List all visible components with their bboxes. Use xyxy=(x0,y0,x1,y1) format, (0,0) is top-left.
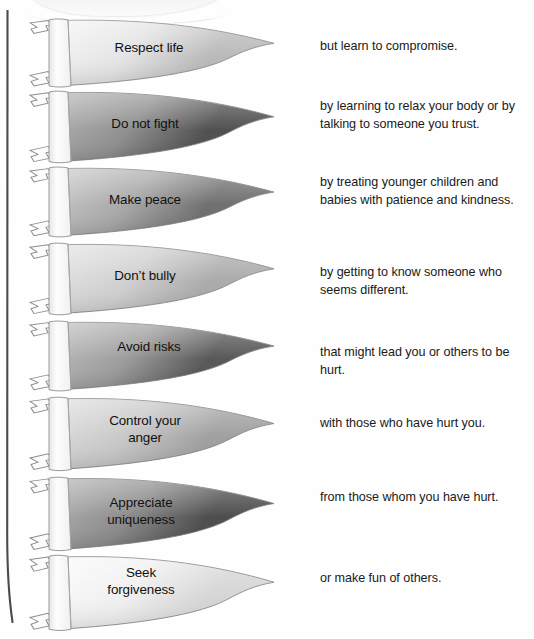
pennant-graphic xyxy=(22,552,282,636)
note-list: but learn to compromise.by learning to r… xyxy=(320,0,534,639)
pennant-graphic xyxy=(22,318,282,396)
page-canvas: Respect life xyxy=(0,0,534,639)
flag-note: from those whom you have hurt. xyxy=(320,489,532,507)
pennant-graphic xyxy=(22,16,282,92)
pennant-graphic xyxy=(22,164,282,242)
flag-item[interactable]: Don’t bully xyxy=(22,240,282,320)
flag-item[interactable]: Control your anger xyxy=(22,394,282,476)
flag-note: by getting to know someone who seems dif… xyxy=(320,264,532,299)
flag-item[interactable]: Seek forgiveness xyxy=(22,552,282,636)
flag-note: or make fun of others. xyxy=(320,570,532,588)
flag-item[interactable]: Make peace xyxy=(22,164,282,242)
flag-item[interactable]: Avoid risks xyxy=(22,318,282,396)
flag-note: but learn to compromise. xyxy=(320,38,532,56)
flag-note: that might lead you or others to be hurt… xyxy=(320,344,532,379)
flag-item[interactable]: Do not fight xyxy=(22,88,282,168)
pennant-graphic xyxy=(22,88,282,168)
pennant-graphic xyxy=(22,474,282,556)
flag-item[interactable]: Respect life xyxy=(22,16,282,92)
page-spine-rule xyxy=(0,10,20,625)
pennant-graphic xyxy=(22,394,282,476)
flag-note: with those who have hurt you. xyxy=(320,415,532,433)
flag-note: by learning to relax your body or by tal… xyxy=(320,98,532,133)
pennant-graphic xyxy=(22,240,282,320)
flag-item[interactable]: Appreciate uniqueness xyxy=(22,474,282,556)
flag-note: by treating younger children and babies … xyxy=(320,174,532,209)
